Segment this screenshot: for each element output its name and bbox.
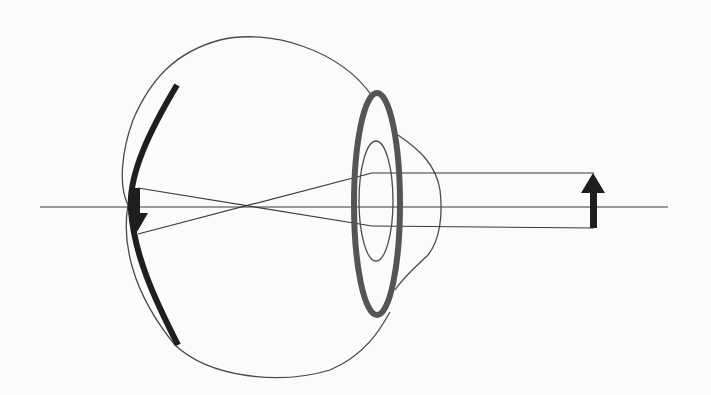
ray-bottom-inside xyxy=(138,173,372,234)
lens-inner xyxy=(359,141,393,261)
ray-bottom-outside xyxy=(372,226,594,228)
object-arrow-shaft xyxy=(590,190,597,228)
eye-diagram: Myopia / eye optics schematic xyxy=(0,0,711,395)
eye-diagram-svg xyxy=(0,0,711,395)
object-arrow-head xyxy=(581,173,605,193)
